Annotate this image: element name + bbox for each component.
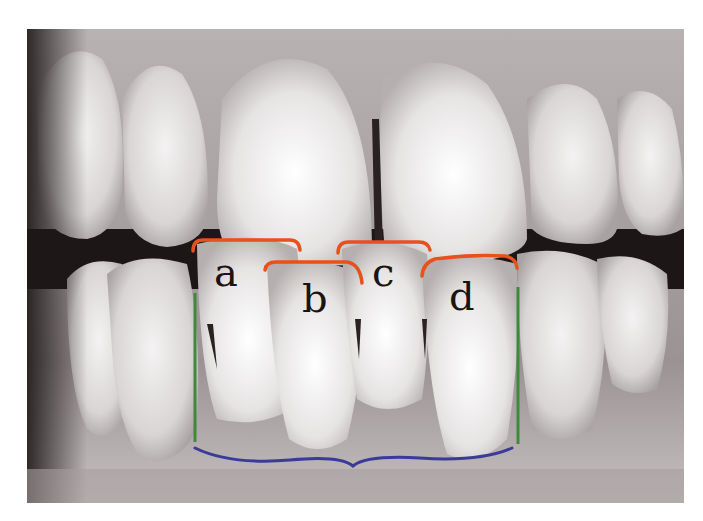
annotated-dental-photo: a b c d — [0, 0, 703, 521]
teeth-illustration — [27, 29, 684, 503]
teeth-photo — [27, 29, 684, 503]
